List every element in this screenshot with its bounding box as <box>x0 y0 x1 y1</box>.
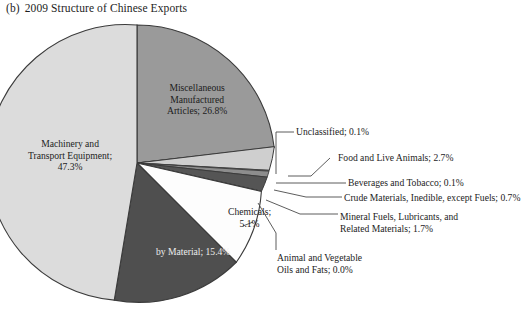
slice-label-misc-line3: Articles; 26.8% <box>167 105 227 117</box>
leader-line-food <box>288 158 330 176</box>
slice-label-machinery-line2: Transport Equipment; <box>28 150 112 162</box>
leader-line-unclassified <box>276 132 294 174</box>
slice-label-machinery-line1: Machinery and <box>28 138 112 150</box>
slice-label-chemicals-line2: 5.1% <box>228 218 271 230</box>
slice-label-chemicals-line1: Chemicals; <box>228 206 271 218</box>
callout-label-mineral-line1: Mineral Fuels, Lubricants, and <box>340 211 458 223</box>
callout-label-animal-vegetable-oils: Animal and Vegetable Oils and Fats; 0.0% <box>277 252 362 275</box>
callout-label-crude-materials: Crude Materials, Inedible, except Fuels;… <box>344 192 520 204</box>
callout-label-oils-line2: Oils and Fats; 0.0% <box>277 264 362 276</box>
figure-container: (b)2009 Structure of Chinese Exports <box>0 0 522 318</box>
slice-label-chemicals: Chemicals; 5.1% <box>228 206 271 229</box>
callout-label-mineral-fuels: Mineral Fuels, Lubricants, and Related M… <box>340 211 458 234</box>
slice-label-misc-line1: Miscellaneous <box>167 82 227 94</box>
slice-label-machinery-line3: 47.3% <box>28 161 112 173</box>
slice-label-by-material: by Material; 15.4% <box>156 246 230 258</box>
callout-label-unclassified: Unclassified; 0.1% <box>296 126 369 138</box>
callout-label-food-and-live-animals: Food and Live Animals; 2.7% <box>338 152 453 164</box>
callout-label-oils-line1: Animal and Vegetable <box>277 252 362 264</box>
leader-line-mineral <box>266 200 338 214</box>
callout-label-beverages-and-tobacco: Beverages and Tobacco; 0.1% <box>348 177 464 189</box>
slice-label-by-material-line1: by Material; 15.4% <box>156 246 230 258</box>
leader-line-crude <box>274 190 342 197</box>
slice-label-machinery: Machinery and Transport Equipment; 47.3% <box>28 138 112 173</box>
callout-label-mineral-line2: Related Materials; 1.7% <box>340 223 458 235</box>
slice-label-miscellaneous: Miscellaneous Manufactured Articles; 26.… <box>167 82 227 117</box>
slice-label-misc-line2: Manufactured <box>167 94 227 106</box>
